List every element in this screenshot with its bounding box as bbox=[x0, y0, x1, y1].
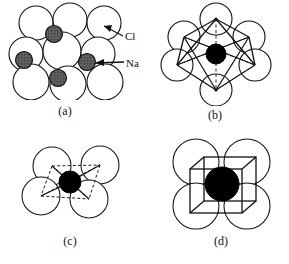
cl-label: Cl bbox=[125, 30, 135, 42]
panel-b-drawing bbox=[150, 2, 285, 106]
central-cation-sphere bbox=[205, 167, 239, 201]
panel-d-drawing bbox=[158, 136, 286, 230]
na-sphere bbox=[50, 70, 67, 87]
panel-d-cubic-coordination bbox=[158, 136, 286, 230]
figure-nacl-coordination: Cl Na (a) (b) (c) (d) bbox=[0, 0, 289, 264]
na-sphere bbox=[16, 52, 33, 69]
cl-sphere bbox=[87, 6, 121, 40]
central-cation-sphere bbox=[206, 44, 226, 64]
panel-c-drawing bbox=[8, 140, 138, 228]
cl-sphere bbox=[87, 64, 123, 100]
cl-sphere bbox=[13, 64, 49, 100]
vertex-dot bbox=[214, 88, 217, 91]
panel-a-rock-salt-packing bbox=[0, 0, 145, 100]
vertex-dot bbox=[214, 17, 217, 20]
panel-a-drawing bbox=[0, 0, 145, 100]
panel-c-tetrahedral-coordination bbox=[8, 140, 138, 228]
na-sphere bbox=[79, 54, 96, 71]
caption-a: (a) bbox=[40, 104, 90, 119]
central-cation-sphere bbox=[59, 171, 81, 193]
na-label: Na bbox=[126, 57, 139, 69]
caption-d: (d) bbox=[196, 234, 246, 249]
panel-b-octahedral-coordination bbox=[150, 2, 285, 106]
caption-c: (c) bbox=[45, 234, 95, 249]
caption-b: (b) bbox=[190, 108, 240, 123]
na-sphere bbox=[46, 26, 63, 43]
